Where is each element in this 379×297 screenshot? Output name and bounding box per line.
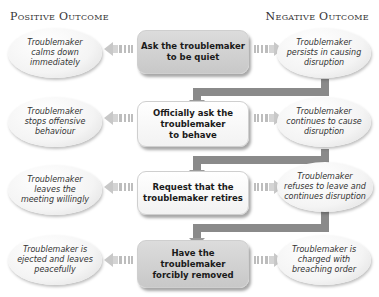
striped-arrow-left-icon bbox=[104, 111, 134, 125]
action-step-2: Officially ask the troublemaker to behav… bbox=[137, 101, 249, 147]
negative-outcome-3: Troublemaker refuses to leave and contin… bbox=[277, 162, 373, 212]
positive-outcome-4: Troublemaker is ejected and leaves peace… bbox=[8, 235, 102, 285]
negative-outcome-4: Troublemaker is charged with breaching o… bbox=[277, 235, 371, 285]
arrow-left-4 bbox=[104, 253, 134, 267]
positive-outcome-2: Troublemaker stops offensive behaviour bbox=[8, 97, 102, 147]
action-step-1: Ask the troublemaker to be quiet bbox=[137, 30, 249, 74]
action-step-4: Have the troublemaker forcibly removed bbox=[137, 240, 249, 288]
negative-outcome-1: Troublemaker persists in causing disrupt… bbox=[277, 28, 371, 78]
arrow-left-3 bbox=[104, 180, 134, 194]
positive-outcome-1: Troublemaker calms down immediately bbox=[8, 28, 102, 78]
striped-arrow-left-icon bbox=[104, 180, 134, 194]
action-step-3: Request that the troublemaker retires bbox=[137, 171, 249, 215]
striped-arrow-left-icon bbox=[104, 42, 134, 56]
arrow-left-2 bbox=[104, 111, 134, 125]
negative-outcome-2: Troublemaker continues to cause disrupti… bbox=[277, 97, 371, 147]
striped-arrow-left-icon bbox=[104, 253, 134, 267]
arrow-left-1 bbox=[104, 42, 134, 56]
positive-outcome-3: Troublemaker leaves the meeting willingl… bbox=[8, 165, 102, 215]
